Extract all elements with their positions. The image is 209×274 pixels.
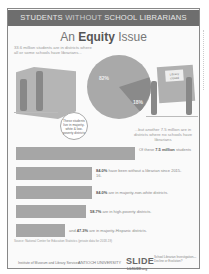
- pie-chart: 82% 18%: [87, 55, 151, 119]
- student-figure: [36, 71, 43, 111]
- stat-text: are in majority-Hispanic districts.: [88, 228, 147, 233]
- header-banner: STUDENTS WITHOUT SCHOOL LIBRARIANS: [8, 10, 199, 26]
- header-text-suffix: SCHOOL LIBRARIANS: [102, 13, 187, 22]
- pie-slice-18: [87, 55, 151, 119]
- library-sign: Library closed: [165, 69, 184, 81]
- info-bubble: These students live in majority-white & …: [60, 112, 88, 140]
- stat-value: 84.0%: [96, 190, 107, 195]
- page-edge: [203, 30, 206, 90]
- title-suffix: Issue: [115, 30, 147, 44]
- stat-bar: [16, 167, 92, 180]
- ground-line: [14, 112, 58, 113]
- stat-text: are in high-poverty districts.: [101, 209, 151, 214]
- stat-bar: [16, 147, 135, 160]
- header-text: STUDENTS: [20, 13, 65, 22]
- stat-value: 7.5 million: [155, 147, 175, 152]
- imls-logo: Institute of Museum and Library Services: [18, 261, 79, 265]
- title-prefix: An: [60, 30, 78, 44]
- stat-text: students: [175, 147, 191, 152]
- antioch-logo: ANTIOCH UNIVERSITY: [78, 260, 121, 265]
- stat-value: 47.3%: [77, 228, 88, 233]
- stat-bar: [16, 224, 65, 237]
- stat-label: and 47.3% are in majority-Hispanic distr…: [69, 228, 189, 233]
- title-emphasis: Equity: [78, 30, 115, 44]
- person-figure: [186, 77, 192, 115]
- stat-bar: [16, 186, 92, 199]
- infographic-frame: STUDENTS WITHOUT SCHOOL LIBRARIANS An Eq…: [7, 8, 200, 269]
- slide-subtitle: School Librarian Investigation—Decline o…: [154, 256, 198, 263]
- stat-bar: [16, 205, 86, 218]
- ground-line: [146, 116, 198, 117]
- pie-label-18: 18%: [133, 99, 143, 105]
- another-text: ...but another 7.5 million are in distri…: [128, 127, 198, 142]
- stat-text: have been without a librarian since 2015…: [96, 168, 181, 178]
- page-title: An Equity Issue: [8, 30, 199, 44]
- stat-value: 58.7%: [90, 209, 101, 214]
- stat-label: 84.0% are in majority-non-white district…: [96, 190, 201, 195]
- stat-prefix: Of these: [139, 147, 155, 152]
- header-highlight: WITHOUT: [65, 13, 102, 22]
- stat-prefix: and: [69, 228, 77, 233]
- student-figure: [20, 79, 27, 111]
- intro-text: 33.6 million students are in districts w…: [14, 45, 92, 55]
- stat-text: are in majority-non-white districts.: [107, 190, 168, 195]
- slide-logo: SLIDE: [126, 256, 154, 266]
- pie-label-82: 82%: [99, 75, 109, 81]
- slide-url: LibSLIDE.org: [127, 267, 147, 271]
- person-figure: [151, 81, 157, 115]
- stat-label: 58.7% are in high-poverty districts.: [90, 209, 195, 214]
- source-citation: Source: National Center for Education St…: [14, 239, 112, 243]
- stat-label: Of these 7.5 million students: [139, 147, 197, 152]
- stat-label: 84.0% have been without a librarian sinc…: [96, 168, 186, 178]
